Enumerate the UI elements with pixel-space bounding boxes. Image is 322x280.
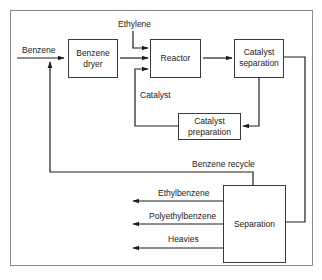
catalyst-label: Catalyst: [140, 90, 171, 100]
reactor-label: Reactor: [161, 53, 191, 63]
stream-ethylene-feed: Ethylene: [118, 19, 151, 48]
catalyst-separation-label-line1: Catalyst: [244, 47, 275, 57]
unit-separation: Separation: [224, 186, 286, 263]
stream-benzene-feed: Benzene: [17, 45, 64, 58]
stream-heavies: Heavies: [133, 234, 223, 248]
benzene-feed-label: Benzene: [22, 45, 56, 55]
benzene-dryer-label-line2: dryer: [83, 59, 103, 69]
stream-polyethylbenzene: Polyethylbenzene: [133, 211, 223, 224]
process-flow-diagram: Benzene Benzene dryer Ethylene Reactor C…: [0, 0, 322, 280]
stream-ethylbenzene: Ethylbenzene: [133, 188, 223, 201]
catalyst-preparation-label-line2: preparation: [188, 127, 231, 137]
unit-catalyst-preparation: Catalyst preparation: [179, 114, 241, 140]
catalyst-preparation-label-line1: Catalyst: [194, 116, 225, 126]
benzene-dryer-label-line1: Benzene: [76, 48, 110, 58]
catalyst-separation-label-line2: separation: [239, 58, 279, 68]
benzene-recycle-label: Benzene recycle: [192, 159, 255, 169]
ethylbenzene-label: Ethylbenzene: [158, 188, 210, 198]
unit-catalyst-separation: Catalyst separation: [235, 40, 284, 78]
polyethylbenzene-label: Polyethylbenzene: [149, 211, 216, 221]
unit-benzene-dryer: Benzene dryer: [69, 40, 118, 78]
heavies-label: Heavies: [168, 234, 199, 244]
stream-catalyst-separation-to-separation: [284, 57, 305, 222]
stream-catalyst-separation-to-preparation: [243, 77, 259, 126]
separation-label: Separation: [234, 219, 275, 229]
ethylene-feed-label: Ethylene: [118, 19, 151, 29]
unit-reactor: Reactor: [151, 40, 201, 78]
